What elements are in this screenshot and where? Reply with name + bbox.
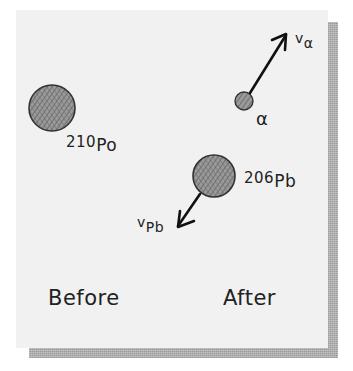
po210-nucleus-icon [29, 85, 75, 131]
pb-velocity-arrow-icon [178, 194, 200, 227]
po-symbol: Po [96, 135, 117, 155]
alpha-velocity-label: vα [295, 30, 314, 46]
alpha-velocity-arrow-icon [250, 34, 286, 93]
alpha-particle-icon [235, 92, 253, 110]
pb-symbol: Pb [274, 171, 296, 191]
pb206-nucleus-icon [193, 155, 235, 197]
pb-mass-number: 206 [244, 169, 274, 187]
alpha-v-sub: α [304, 35, 314, 51]
pb-velocity-label: vPb [137, 214, 164, 230]
diagram-artwork [0, 0, 353, 371]
before-caption: Before [48, 286, 120, 310]
pb206-label: 206Pb [244, 167, 296, 187]
po-mass-number: 210 [66, 133, 96, 151]
po210-label: 210Po [66, 131, 117, 151]
alpha-label: α [256, 108, 268, 129]
alpha-v: v [295, 30, 304, 46]
after-caption: After [223, 286, 276, 310]
pb-v-sub: Pb [146, 219, 164, 235]
pb-v: v [137, 214, 146, 230]
